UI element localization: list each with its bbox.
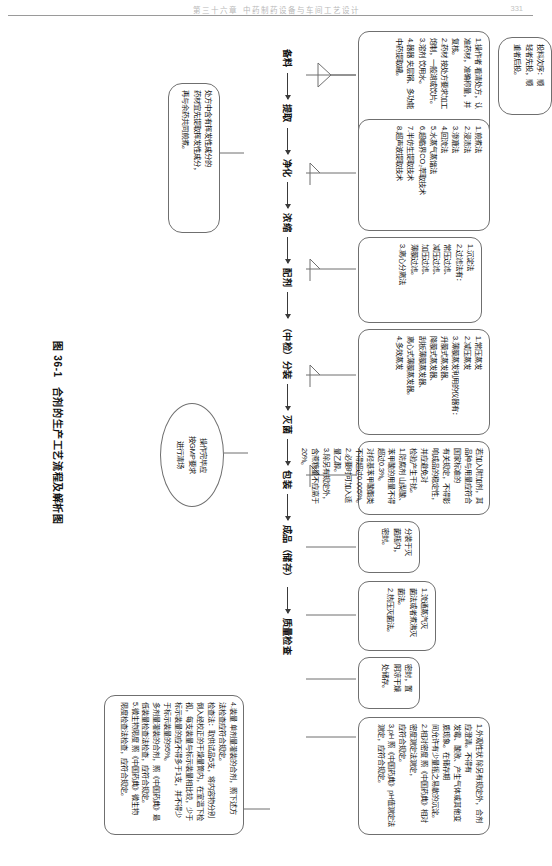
nongsuo-line-3: 升膜式蒸发器、: [439, 336, 450, 428]
peiji-line-5: 2.必要时可加入适量乙醇。: [330, 448, 352, 508]
box-huifaxing-note: 处方中含有挥发性成分的 药材宜先提取挥发性成分， 再与余药共同煎煮。: [168, 83, 220, 233]
flow-node-zhiliang[interactable]: 质量检查: [281, 618, 295, 656]
figure-stage: 1.操作者 看清处方，认 准药材，准确称量，并 复核。 2.药材 按处方要求加工…: [36, 23, 506, 843]
miejun-line-3: 2.热压灭菌法。: [385, 588, 396, 644]
fenzhuang-line-0: 分装于灭: [402, 528, 413, 566]
fenzhuang-line-1: 菌瓶内，: [391, 528, 402, 566]
zhiliang2-line-10: 限度检查法检查，应符合规定。: [117, 702, 128, 828]
touliao-line-0: 投料次序：顺: [534, 44, 545, 108]
peiji-line-6: 3.除另有规定外，含蔗糖量不应高于20%。: [298, 448, 331, 508]
zhiliang2-line-0: 4.装量 单剂量灌装的合剂，照下述方: [227, 702, 238, 828]
jinghua-line-3: 减压过滤、: [431, 244, 442, 316]
flow-node-tiqu[interactable]: 提取: [281, 104, 295, 123]
nongsuo-line-0: 1.常压蒸发: [472, 336, 483, 428]
flow-node-nongsuo[interactable]: 浓缩: [281, 213, 295, 232]
gmp-line-0: 操作完毕应: [197, 438, 208, 473]
baozhuang-line-1: 阴凉干燥: [391, 664, 402, 702]
flow-node-chengpin[interactable]: 成品（储存）: [281, 525, 295, 581]
zhiliang2-line-3: 倒入经校正的干燥量筒内，在室温下检: [194, 702, 205, 828]
peiji-line-3: 1.防腐剂 山梨酸、苯甲酸的用量不得超过0.3%。: [374, 448, 407, 508]
zhiliang-line-3: 2.相对密度 照《中国药典》相对密度测定法测定，: [407, 724, 429, 828]
figure-caption: 图 36-1合剂的生产工艺流程及解析图: [51, 23, 66, 843]
flow-node-miejun[interactable]: 灭菌: [281, 415, 295, 434]
nongsuo-line-7: 4.多效蒸发: [394, 336, 405, 428]
flow-arrow-5: [283, 292, 293, 318]
box-zhiliang-upper: 1.外观性状 除另有规定外，合剂应澄清。不得有 发霉、酸败、产生气体或其他变质现…: [358, 717, 490, 835]
box-nongsuo: 1.常压蒸发 2.减压蒸发 3.薄膜蒸发利用的仪器有： 升膜式蒸发器、 降膜式蒸…: [358, 329, 490, 435]
flow-node-fenzhuang[interactable]: （中检）分装: [281, 323, 295, 379]
peiji-line-0: 若加入附加剂，其品种与用量应符合国家标准的: [451, 448, 484, 508]
box-jinghua: 1.沉淀法 2.过滤法有： 常压过滤、 减压过滤、 加压过滤、 薄膜过滤。 3.…: [358, 237, 482, 323]
flow-arrow-8: [283, 494, 293, 520]
box-peiji: 若加入附加剂，其品种与用量应符合国家标准的 有关规定，不得影响成品的稳定性，并应…: [358, 441, 490, 515]
figure-canvas: 1.操作者 看清处方，认 准药材，准确称量，并 复核。 2.药材 按处方要求加工…: [76, 23, 506, 843]
fenzhuang-line-2: 密封。: [380, 528, 391, 566]
flow-node-peiji[interactable]: 配剂: [281, 268, 295, 287]
nongsuo-line-4: 降膜式蒸发器、: [427, 336, 438, 428]
tiqu-line-6: 7.半仿生提取技术: [405, 126, 416, 224]
box-touliao-note: 投料次序：顺 轻者先投，顺 重者后投。: [498, 37, 552, 115]
flow-arrow-1: [283, 73, 293, 99]
nongsuo-line-5: 刮板薄膜蒸发器、: [416, 336, 427, 428]
zhiliang-line-4: 应符合规定。: [396, 724, 407, 828]
zhiliang-line-1: 发霉、酸败、产生气体或其他变质现象。在储存期: [440, 724, 462, 828]
header-rule: [8, 15, 533, 16]
baozhuang-line-0: 密封，置: [402, 664, 413, 702]
flow-node-jinghua[interactable]: 净化: [281, 159, 295, 178]
touliao-line-1: 轻者先投，顺: [523, 44, 534, 108]
huifa-line-2: 再与余药共同煎煮。: [180, 90, 191, 226]
header-running-title: 第三十六章 中药制药设备与车间工艺设计: [30, 4, 523, 15]
touliao-line-2: 重者后投。: [512, 44, 523, 108]
jinghua-line-1: 2.过滤法有：: [453, 244, 464, 316]
box-tiqu: 1.煎煮法 2.浸渍法 3.渗漉法 4.回流法 5.水蒸气蒸馏法 6.超临界CO…: [358, 119, 490, 231]
zhiliang2-line-6: 于标示装量的95%。: [161, 702, 172, 828]
baozhuang-line-2: 处储存。: [380, 664, 391, 702]
page-number: 331: [510, 4, 523, 13]
tiqu-line-5: 6.超临界CO₂萃取技术: [416, 126, 427, 224]
tiqu-line-4: 5.水蒸气蒸馏法: [427, 126, 438, 224]
tiqu-line-3: 4.回流法: [439, 126, 450, 224]
box-miejun: 1.流通蒸汽灭 菌法或者煮沸灭 菌法。 2.热压灭菌法。: [358, 581, 436, 651]
jinghua-line-5: 薄膜过滤。: [408, 244, 419, 316]
jinghua-line-4: 加压过滤、: [419, 244, 430, 316]
flow-node-baozhuang[interactable]: 包装: [281, 470, 295, 489]
figure-caption-title: 合剂的生产工艺流程及解析图: [52, 387, 63, 525]
peiji-line-2: 检验产生干扰。: [407, 448, 418, 508]
flow-arrow-2: [283, 128, 293, 154]
zhiliang2-line-1: 法检查应符合规定。: [216, 702, 227, 828]
flow-arrow-4: [283, 237, 293, 263]
ellipse-gmp: 操作完毕应 按GMP要求 进行清场: [160, 403, 224, 507]
zhiliang2-line-8: 低装量检查法检查，应符合规定。: [139, 702, 150, 828]
box-zhiliang-lower: 4.装量 单剂量灌装的合剂，照下述方 法检查应符合规定。 检查法：取供试品5支，…: [104, 695, 244, 835]
gmp-line-1: 按GMP要求: [186, 436, 197, 474]
jinghua-line-6: 3.离心分离法: [397, 244, 408, 316]
tiqu-line-1: 2.浸渍法: [461, 126, 472, 224]
tiqu-line-7: 8.超声波提取技术: [394, 126, 405, 224]
peiji-line-1: 有关规定，不得影响成品的稳定性，并应避免对: [418, 448, 451, 508]
figure-caption-number: 图 36-1: [52, 341, 63, 377]
zhiliang2-line-7: 多剂量灌装的合剂，照《中国药典》最: [150, 702, 161, 828]
nongsuo-line-1: 2.减压蒸发: [461, 336, 472, 428]
flow-arrow-9: [283, 587, 293, 613]
peiji-line-4: 对羟基苯甲酸酯类不得超过0.005%。: [352, 448, 374, 508]
jinghua-line-2: 常压过滤、: [442, 244, 453, 316]
huifa-line-1: 药材宜先提取挥发性成分，: [191, 90, 202, 226]
flow-node-beiliao[interactable]: 备料: [281, 49, 295, 68]
flow-arrow-6: [283, 384, 293, 410]
flow-arrow-3: [283, 182, 293, 208]
tiqu-line-2: 3.渗漉法: [450, 126, 461, 224]
zhiliang2-line-5: 标示装量的应不得多于1支，并不得少: [172, 702, 183, 828]
miejun-line-1: 菌法或者煮沸灭: [407, 588, 418, 644]
tiqu-line-0: 1.煎煮法: [472, 126, 483, 224]
zhiliang2-line-4: 视，每支装量与标示装量相比较，少于: [183, 702, 194, 828]
huifa-line-0: 处方中含有挥发性成分的: [202, 90, 213, 226]
zhiliang2-line-9: 5.微生物限度 照《中国药典》微生物: [128, 702, 139, 828]
box-fenzhuang: 分装于灭 菌瓶内， 密封。: [358, 521, 420, 573]
jinghua-line-0: 1.沉淀法: [464, 244, 475, 316]
zhiliang2-line-2: 检查法：取供试品5支，将内容物分别: [205, 702, 216, 828]
gmp-line-2: 进行清场: [174, 441, 185, 469]
box-baozhuang: 密封，置 阴凉干燥 处储存。: [358, 657, 420, 709]
zhiliang-line-5: 3.pH 照《中国药典》pH值测定法测定，应符合规定。: [374, 724, 396, 828]
nongsuo-line-6: 离心式薄膜蒸发器。: [405, 336, 416, 428]
nongsuo-line-2: 3.薄膜蒸发利用的仪器有：: [450, 336, 461, 428]
